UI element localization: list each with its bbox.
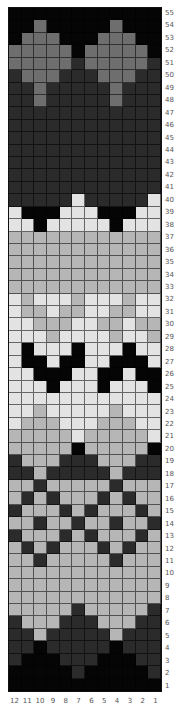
stitch-cell xyxy=(22,616,35,628)
stitch-cell xyxy=(123,393,136,405)
stitch-cell xyxy=(34,132,47,144)
stitch-cell xyxy=(136,542,149,554)
stitch-cell xyxy=(136,20,149,32)
stitch-cell xyxy=(34,318,47,330)
row-label: 21 xyxy=(162,430,183,442)
stitch-cell xyxy=(98,567,111,579)
stitch-grid xyxy=(8,7,162,692)
row-label: 10 xyxy=(162,567,183,579)
stitch-cell xyxy=(148,33,161,45)
stitch-cell xyxy=(110,666,123,678)
stitch-cell xyxy=(136,492,149,504)
stitch-cell xyxy=(22,393,35,405)
stitch-cell xyxy=(72,207,85,219)
stitch-cell xyxy=(85,679,98,691)
column-number-labels: 121110987654321 xyxy=(8,695,162,707)
stitch-cell xyxy=(123,33,136,45)
row-label: 36 xyxy=(162,244,183,256)
stitch-cell xyxy=(47,492,60,504)
stitch-cell xyxy=(123,405,136,417)
stitch-cell xyxy=(148,654,161,666)
stitch-cell xyxy=(72,58,85,70)
stitch-cell xyxy=(60,306,73,318)
stitch-cell xyxy=(85,120,98,132)
stitch-cell xyxy=(60,554,73,566)
stitch-cell xyxy=(136,132,149,144)
stitch-cell xyxy=(98,107,111,119)
row-label: 30 xyxy=(162,318,183,330)
stitch-cell xyxy=(60,579,73,591)
stitch-cell xyxy=(136,393,149,405)
stitch-cell xyxy=(110,356,123,368)
stitch-cell xyxy=(136,256,149,268)
stitch-cell xyxy=(72,530,85,542)
stitch-cell xyxy=(148,418,161,430)
stitch-cell xyxy=(9,530,22,542)
stitch-cell xyxy=(136,343,149,355)
stitch-cell xyxy=(148,343,161,355)
stitch-cell xyxy=(110,467,123,479)
stitch-cell xyxy=(60,530,73,542)
stitch-cell xyxy=(9,393,22,405)
stitch-cell xyxy=(110,455,123,467)
stitch-cell xyxy=(22,467,35,479)
row-label: 5 xyxy=(162,630,183,642)
stitch-cell xyxy=(110,120,123,132)
stitch-cell xyxy=(60,467,73,479)
stitch-cell xyxy=(85,331,98,343)
stitch-cell xyxy=(9,592,22,604)
stitch-cell xyxy=(60,194,73,206)
stitch-cell xyxy=(22,505,35,517)
stitch-cell xyxy=(47,666,60,678)
stitch-cell xyxy=(110,256,123,268)
stitch-cell xyxy=(34,517,47,529)
stitch-cell xyxy=(85,641,98,653)
stitch-cell xyxy=(72,182,85,194)
stitch-cell xyxy=(22,604,35,616)
row-label: 18 xyxy=(162,468,183,480)
stitch-cell xyxy=(47,629,60,641)
stitch-cell xyxy=(60,641,73,653)
stitch-cell xyxy=(98,294,111,306)
stitch-cell xyxy=(98,232,111,244)
stitch-cell xyxy=(72,455,85,467)
stitch-cell xyxy=(123,343,136,355)
stitch-cell xyxy=(60,107,73,119)
stitch-cell xyxy=(85,604,98,616)
stitch-cell xyxy=(148,393,161,405)
stitch-cell xyxy=(9,666,22,678)
stitch-cell xyxy=(47,679,60,691)
stitch-cell xyxy=(34,467,47,479)
stitch-cell xyxy=(34,33,47,45)
row-label: 44 xyxy=(162,144,183,156)
stitch-cell xyxy=(22,405,35,417)
stitch-cell xyxy=(110,281,123,293)
stitch-cell xyxy=(98,207,111,219)
stitch-cell xyxy=(9,20,22,32)
stitch-cell xyxy=(110,592,123,604)
stitch-cell xyxy=(60,120,73,132)
stitch-cell xyxy=(123,70,136,82)
stitch-cell xyxy=(22,368,35,380)
stitch-cell xyxy=(136,368,149,380)
stitch-cell xyxy=(148,20,161,32)
row-label: 6 xyxy=(162,617,183,629)
stitch-cell xyxy=(22,70,35,82)
stitch-cell xyxy=(47,169,60,181)
stitch-cell xyxy=(123,256,136,268)
stitch-cell xyxy=(85,8,98,20)
stitch-cell xyxy=(9,306,22,318)
stitch-cell xyxy=(47,443,60,455)
stitch-cell xyxy=(136,58,149,70)
stitch-cell xyxy=(123,145,136,157)
stitch-cell xyxy=(72,654,85,666)
stitch-cell xyxy=(22,281,35,293)
stitch-cell xyxy=(85,157,98,169)
stitch-cell xyxy=(72,480,85,492)
stitch-cell xyxy=(85,654,98,666)
stitch-cell xyxy=(34,666,47,678)
stitch-cell xyxy=(98,666,111,678)
row-label: 53 xyxy=(162,32,183,44)
stitch-cell xyxy=(47,467,60,479)
stitch-cell xyxy=(9,331,22,343)
